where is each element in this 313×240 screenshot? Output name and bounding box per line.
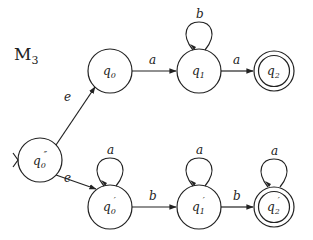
svg-text:b: b (196, 7, 204, 21)
svg-text:a: a (233, 53, 240, 67)
transition-q1-q2: a (221, 53, 253, 71)
state-q0-prime: q0′ (88, 185, 132, 229)
state-q2-prime-accept: q2′ (254, 187, 294, 227)
loop-q1p: a (186, 143, 212, 186)
machine-title: M3 (14, 44, 38, 67)
state-q0-double-prime: q0″ (18, 138, 62, 182)
svg-text:e: e (64, 171, 71, 185)
svg-text:q2: q2 (267, 64, 280, 80)
svg-text:q0: q0 (103, 64, 116, 80)
svg-text:q1′: q1′ (192, 196, 205, 216)
transition-q0pp-q0p: e (56, 171, 96, 189)
svg-text:a: a (149, 53, 156, 67)
svg-text:b: b (233, 189, 241, 203)
state-q1-prime: q1′ (177, 185, 221, 229)
state-q0: q0 (88, 49, 132, 93)
start-arrow-icon (13, 153, 18, 167)
svg-text:a: a (107, 143, 114, 157)
svg-text:b: b (149, 189, 157, 203)
loop-q2p: a (261, 144, 287, 187)
svg-text:q2′: q2′ (267, 196, 280, 216)
state-q2-accept: q2 (254, 51, 294, 91)
transition-q0pp-q0: e (56, 87, 95, 145)
transition-q1p-q2p: b (221, 189, 253, 207)
transition-q0-q1: a (132, 53, 176, 71)
svg-text:a: a (196, 143, 203, 157)
automaton-diagram: M3 q0″ q0 q1 q2 q0′ q1′ q2′ e (0, 0, 313, 240)
loop-q0p: a (97, 143, 123, 186)
svg-text:e: e (64, 90, 71, 104)
svg-text:a: a (271, 144, 278, 158)
svg-text:q0″: q0″ (33, 150, 48, 170)
svg-text:q1: q1 (192, 64, 205, 80)
state-q1: q1 (177, 49, 221, 93)
transition-q0p-q1p: b (132, 189, 176, 207)
svg-text:q0′: q0′ (103, 196, 116, 216)
loop-q1: b (186, 7, 212, 50)
